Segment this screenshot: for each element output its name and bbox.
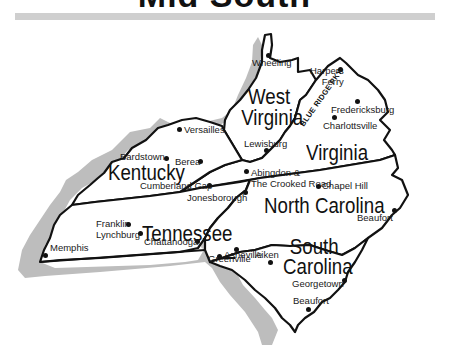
city-dot-versailles — [177, 127, 182, 132]
state-label-west-virginia: West Virginia — [248, 86, 303, 128]
map-outline — [0, 0, 449, 358]
state-label-line: West — [248, 86, 303, 107]
state-label-line: Carolina — [283, 257, 353, 277]
city-label-line: Abingdon & — [251, 167, 331, 178]
city-label-cumberland-gap: Cumberland Gap — [140, 181, 212, 191]
city-label-bardstown: Bardstown — [120, 152, 165, 162]
city-label-wheeling: Wheeling — [252, 58, 292, 68]
city-label-memphis: Memphis — [50, 243, 89, 253]
city-label-line: The Crooked Road — [251, 178, 331, 189]
city-label-jonesborough: Jonesborough — [187, 193, 247, 203]
city-label-beaufort-sc: Beaufort — [293, 296, 329, 306]
city-label-franklin: Franklin — [96, 219, 130, 229]
state-label-line: Virginia — [241, 107, 303, 128]
city-label-aiken: Aiken — [255, 250, 279, 260]
city-dot-memphis — [43, 253, 48, 258]
city-label-greenville: Greenville — [208, 254, 251, 264]
city-label-abingdon: Abingdon & The Crooked Road — [251, 167, 331, 189]
state-label-virginia: Virginia — [306, 142, 368, 164]
city-dot-aiken — [268, 260, 273, 265]
city-dot-beaufort-sc — [306, 307, 311, 312]
city-label-chapel-hill: Chapel Hill — [322, 181, 368, 191]
state-label-south-carolina: South Carolina — [283, 237, 353, 277]
city-label-berea: Berea — [175, 157, 200, 167]
city-label-lynchburg: Lynchburg — [96, 230, 140, 240]
city-label-chattanooga: Chattanooga — [144, 237, 198, 247]
city-dot-abingdon — [244, 169, 249, 174]
city-label-georgetown: Georgetown — [292, 279, 344, 289]
city-label-line: Harpers — [310, 65, 344, 76]
city-label-lewisburg: Lewisburg — [244, 139, 287, 149]
city-label-line: Ferry — [314, 76, 344, 87]
city-label-harpers-ferry: Harpers Ferry — [310, 65, 344, 87]
city-label-charlottsville: Charlottsville — [323, 121, 377, 131]
city-label-fredericksburg: Fredericksburg — [331, 105, 394, 115]
city-label-versailles: Versailles — [184, 125, 225, 135]
city-label-beaufort-nc: Beaufort — [357, 213, 393, 223]
